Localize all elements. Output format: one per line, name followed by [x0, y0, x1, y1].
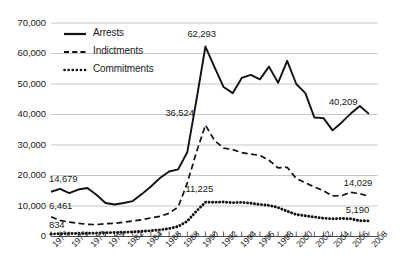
series-line-indictments — [51, 125, 369, 225]
legend-item-indictments: Indictments — [63, 41, 193, 59]
legend-label-indictments: Indictments — [93, 45, 143, 56]
legend-swatch-dotted-icon — [63, 62, 87, 74]
data-label: 40,209 — [329, 96, 357, 107]
data-label: 36,524 — [165, 107, 193, 118]
legend-label-commitments: Commitments — [93, 63, 154, 74]
legend-swatch-dashed-icon — [63, 44, 87, 56]
data-label: 6,461 — [49, 200, 72, 211]
y-axis-tick-label: 40,000 — [0, 108, 46, 119]
data-label: 5,190 — [346, 204, 369, 215]
series-line-commitments — [51, 202, 369, 234]
y-axis-tick-label: 50,000 — [0, 78, 46, 89]
chart-legend: Arrests Indictments Commitments — [63, 23, 193, 79]
legend-swatch-solid-icon — [63, 26, 87, 38]
legend-label-arrests: Arrests — [93, 27, 124, 38]
data-label: 834 — [49, 219, 65, 230]
legend-item-commitments: Commitments — [63, 59, 193, 77]
legend-item-arrests: Arrests — [63, 23, 193, 41]
y-axis-tick-label: 60,000 — [0, 47, 46, 58]
y-axis-tick-label: 0 — [0, 230, 46, 241]
data-label: 11,225 — [185, 183, 213, 194]
data-label: 14,679 — [49, 173, 77, 184]
y-axis-tick-label: 10,000 — [0, 200, 46, 211]
y-axis-tick-label: 20,000 — [0, 169, 46, 180]
line-chart: 010,00020,00030,00040,00050,00060,00070,… — [0, 0, 408, 273]
y-axis-tick-label: 70,000 — [0, 17, 46, 28]
y-axis-tick-label: 30,000 — [0, 139, 46, 150]
data-label: 14,029 — [344, 177, 372, 188]
